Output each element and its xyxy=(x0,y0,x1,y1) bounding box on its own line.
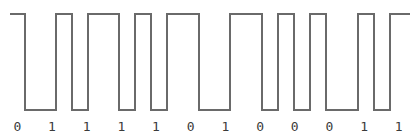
signal-trace xyxy=(10,14,410,110)
bit-label-7: 0 xyxy=(243,117,278,140)
bit-label-3: 1 xyxy=(104,117,139,140)
waveform-figure: 0 1 1 1 1 0 1 0 0 0 1 1 xyxy=(0,0,416,140)
bit-label-5: 0 xyxy=(173,117,208,140)
bit-label-10: 1 xyxy=(347,117,382,140)
bit-label-6: 1 xyxy=(208,117,243,140)
bit-label-2: 1 xyxy=(69,117,104,140)
bit-label-1: 1 xyxy=(35,117,70,140)
bit-label-11: 1 xyxy=(381,117,416,140)
bit-label-0: 0 xyxy=(0,117,35,140)
bit-label-4: 1 xyxy=(139,117,174,140)
bit-label-row: 0 1 1 1 1 0 1 0 0 0 1 1 xyxy=(0,117,416,140)
bit-label-9: 0 xyxy=(312,117,347,140)
bit-label-8: 0 xyxy=(277,117,312,140)
